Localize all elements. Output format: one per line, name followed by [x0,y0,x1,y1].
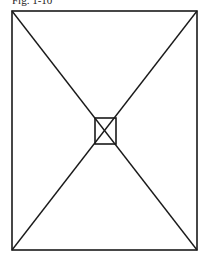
diagram-canvas [0,0,208,259]
